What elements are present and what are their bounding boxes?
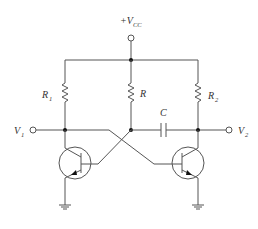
transistor-q2	[165, 130, 204, 205]
svg-text:1: 1	[49, 95, 52, 102]
r1-label: R 1	[41, 89, 52, 102]
v1-terminal	[30, 127, 36, 133]
resistor-r	[128, 60, 134, 130]
svg-text:1: 1	[21, 131, 24, 138]
svg-text:R: R	[207, 90, 214, 101]
svg-text:R: R	[41, 89, 48, 100]
vcc-terminal	[128, 35, 134, 41]
vcc-label: +V CC	[120, 15, 142, 28]
v2-terminal	[226, 127, 232, 133]
v2-label: V 2	[238, 125, 249, 138]
svg-text:2: 2	[245, 131, 249, 138]
ground-icon	[59, 205, 71, 209]
resistor-r2	[195, 60, 201, 130]
transistor-q1	[59, 130, 91, 205]
circuit-diagram: +V CC R 1 R R 2 V 1	[0, 0, 258, 229]
v1-label: V 1	[14, 125, 24, 138]
r-label: R	[139, 88, 146, 99]
capacitor-c	[161, 123, 166, 137]
resistor-r1	[62, 60, 68, 130]
ground-icon	[192, 205, 204, 209]
cross-wire-to-q2-base	[109, 130, 165, 164]
svg-text:2: 2	[215, 96, 219, 103]
svg-text:CC: CC	[133, 21, 142, 28]
c-label: C	[160, 107, 167, 118]
r2-label: R 2	[207, 90, 219, 103]
cross-wire-to-q1-base	[91, 130, 131, 164]
